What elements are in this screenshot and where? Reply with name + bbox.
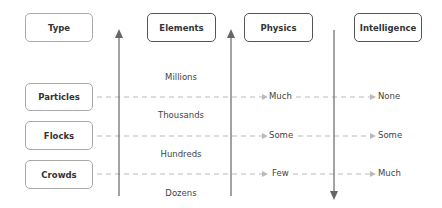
arrow-up-icon — [227, 29, 235, 38]
scale-thousands: Thousands — [158, 110, 204, 120]
row-particles-label: Particles — [38, 92, 80, 102]
scale-millions: Millions — [165, 72, 197, 82]
header-elements-label: Elements — [159, 23, 203, 33]
intelligence-value-crowds: Much — [376, 168, 403, 178]
header-elements: Elements — [147, 13, 216, 42]
header-intelligence: Intelligence — [354, 13, 422, 42]
arrow-up-icon — [115, 29, 123, 38]
row-particles: Particles — [25, 83, 93, 111]
scale-hundreds: Hundreds — [161, 149, 202, 159]
header-type-label: Type — [48, 23, 70, 33]
header-type: Type — [25, 13, 93, 42]
row-crowds-label: Crowds — [41, 170, 76, 180]
header-intelligence-label: Intelligence — [360, 23, 417, 33]
intelligence-value-particles: None — [376, 91, 402, 101]
scale-dozens: Dozens — [165, 188, 196, 198]
row-flocks: Flocks — [25, 121, 93, 150]
intelligence-value-flocks: Some — [376, 130, 404, 140]
row-crowds: Crowds — [25, 160, 93, 189]
physics-value-flocks: Some — [267, 130, 295, 140]
header-physics: Physics — [244, 13, 313, 42]
header-physics-label: Physics — [261, 23, 297, 33]
physics-value-particles: Much — [267, 91, 294, 101]
physics-value-crowds: Few — [270, 168, 291, 178]
arrow-down-icon — [330, 191, 338, 200]
arrowhead-icon — [262, 171, 268, 177]
row-flocks-label: Flocks — [44, 131, 74, 141]
